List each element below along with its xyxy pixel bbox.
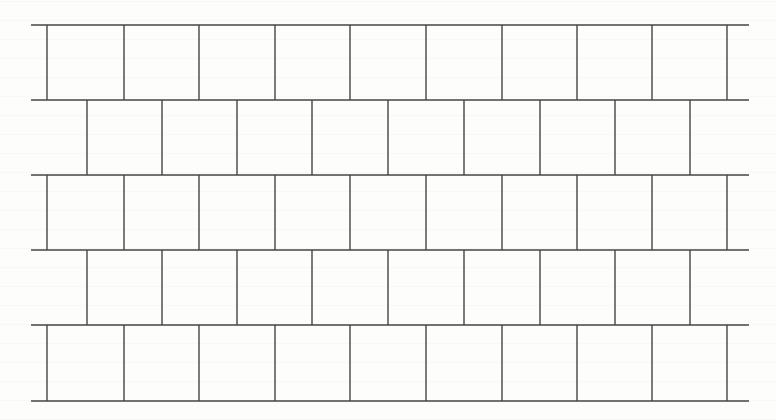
cafe-wall-grid [0,0,776,420]
